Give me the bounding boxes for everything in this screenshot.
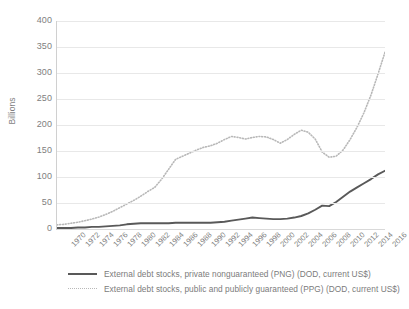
series-line-png (57, 171, 385, 228)
gridline (57, 47, 385, 48)
solid-line-swatch (68, 270, 97, 278)
y-tick-label: 200 (6, 120, 52, 129)
gridline (57, 125, 385, 126)
y-tick-label: 350 (6, 42, 52, 51)
gridline (57, 177, 385, 178)
plot-area (57, 21, 385, 229)
gridline (57, 99, 385, 100)
x-tick-label: 2016 (391, 231, 409, 249)
y-tick-label: 250 (6, 94, 52, 103)
y-tick-label: 150 (6, 146, 52, 155)
chart-legend: External debt stocks, private nonguarant… (0, 266, 398, 296)
gridline (57, 21, 385, 22)
legend-label-png: External debt stocks, private nonguarant… (104, 269, 371, 279)
gridline (57, 73, 385, 74)
legend-item-png[interactable]: External debt stocks, private nonguarant… (0, 266, 398, 281)
y-tick-label: 50 (6, 198, 52, 207)
y-axis-tick-labels: 050100150200250300350400 (0, 0, 52, 309)
series-line-ppg (57, 52, 385, 225)
legend-label-ppg: External debt stocks, public and publicl… (104, 284, 400, 294)
y-tick-label: 400 (6, 16, 52, 25)
gridline (57, 203, 385, 204)
x-axis-tick-labels: 1970197219741976197819801982198419861988… (57, 231, 397, 267)
y-tick-label: 100 (6, 172, 52, 181)
legend-item-ppg[interactable]: External debt stocks, public and publicl… (0, 281, 398, 296)
y-tick-label: 300 (6, 68, 52, 77)
y-tick-label: 0 (6, 224, 52, 233)
dotted-line-swatch (68, 285, 97, 293)
gridline (57, 151, 385, 152)
